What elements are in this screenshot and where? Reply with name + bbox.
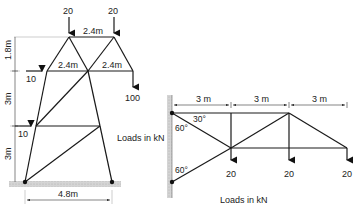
loads-note-left: Loads in kN	[117, 133, 165, 143]
pin-support-left	[23, 180, 27, 184]
load-label-top-right: 20	[108, 6, 118, 16]
angle-label-30: 30°	[193, 114, 206, 124]
angle-label-60-bottom: 60°	[175, 165, 188, 175]
dim-height-bottom: 3m	[3, 147, 13, 160]
dim-base-width: 4.8m	[58, 189, 78, 199]
wall-pin-bottom	[170, 180, 174, 184]
horizontal-dimension: 3 m 3 m 3 m	[174, 94, 347, 108]
dim-height-mid: 3m	[3, 92, 13, 105]
wall-pin-top	[170, 111, 174, 115]
load-label-horizontal-lower: 10	[18, 129, 28, 139]
dim-bay-2: 3 m	[254, 94, 269, 104]
base-dimension: 4.8m	[25, 189, 112, 204]
dim-top-span: 2.4m	[83, 26, 103, 36]
dim-bay-3: 3 m	[312, 94, 327, 104]
load-label-1: 20	[226, 169, 236, 179]
angle-label-60-top: 60°	[175, 123, 188, 133]
load-label-tip: 100	[125, 93, 140, 103]
dim-height-top: 1.8m	[3, 40, 13, 60]
right-truss: 30° 60° 60° 3 m 3 m 3 m 20 20 20 Loads i…	[167, 94, 352, 205]
loads-note-right: Loads in kN	[220, 195, 268, 205]
load-label-horizontal-upper: 10	[26, 74, 36, 84]
load-label-3: 20	[342, 169, 352, 179]
truss-diagram: 20 20 10 10 100 2.4m 2.4m 2.4m 1.8m 3m 3…	[0, 0, 353, 214]
dim-mid-left-span: 2.4m	[58, 60, 78, 70]
left-truss: 20 20 10 10 100 2.4m 2.4m 2.4m 1.8m 3m 3…	[3, 6, 165, 204]
dim-bay-1: 3 m	[196, 94, 211, 104]
load-label-2: 20	[284, 169, 294, 179]
load-label-top-left: 20	[63, 6, 73, 16]
dim-mid-right-span: 2.4m	[102, 60, 122, 70]
left-truss-members	[25, 37, 133, 182]
pin-support-right	[110, 180, 114, 184]
vertical-dimension: 1.8m 3m 3m	[3, 37, 68, 182]
